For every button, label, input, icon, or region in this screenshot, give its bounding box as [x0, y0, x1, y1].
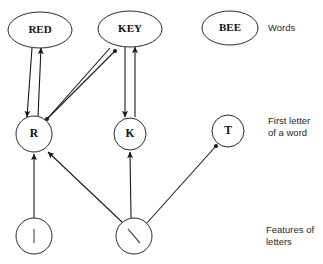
edge-key-to-r	[45, 48, 110, 121]
node-label: T	[224, 124, 232, 136]
tier-label-first-letter: First letter of a word	[268, 115, 310, 138]
edge-line	[130, 152, 131, 218]
node-t[interactable]: T	[212, 115, 244, 147]
edge-endpoint-dot	[113, 49, 117, 53]
tier-label-words: Words	[268, 22, 295, 34]
node-label: BEE	[219, 21, 241, 33]
node-feature-bar[interactable]	[16, 218, 52, 254]
edge-line	[27, 48, 32, 117]
edge-line	[47, 48, 110, 119]
node-label: RED	[28, 23, 51, 35]
node-bee[interactable]: BEE	[202, 11, 258, 45]
node-key[interactable]: KEY	[98, 11, 162, 47]
diagram-canvas: REDKEYBEERKT Words First letter of a wor…	[0, 0, 323, 264]
node-red[interactable]: RED	[8, 12, 72, 48]
edge-line	[38, 48, 41, 117]
edge-line	[146, 146, 216, 224]
tier-label-features: Features of letters	[266, 224, 314, 247]
node-label: K	[126, 127, 135, 139]
edge-red-to-r	[27, 48, 32, 117]
node-label: KEY	[118, 22, 142, 34]
edge-slash-to-r	[48, 152, 122, 222]
edge-endpoint-dot	[214, 144, 218, 148]
node-feature-slash[interactable]	[116, 218, 152, 254]
edge-line	[43, 51, 115, 123]
edge-slash-to-t	[146, 144, 218, 224]
node-label: R	[30, 127, 39, 139]
node-k[interactable]: K	[114, 118, 146, 150]
edge-line	[48, 152, 122, 222]
edge-r-to-red	[38, 48, 41, 117]
node-r[interactable]: R	[16, 116, 52, 152]
edge-slash-to-k	[130, 152, 131, 218]
edge-r-to-key	[43, 49, 117, 123]
node-layer: REDKEYBEERKT	[8, 11, 258, 254]
